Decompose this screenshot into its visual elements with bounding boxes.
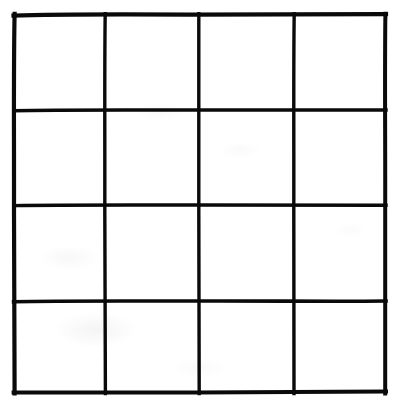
grid-cell-r3c2[interactable] <box>105 205 199 301</box>
grid-cell-r4c2[interactable] <box>105 301 199 392</box>
grid-cell-r4c3[interactable] <box>199 301 294 392</box>
grid-cell-r2c3[interactable] <box>199 110 294 205</box>
grid-cell-r1c3[interactable] <box>199 15 294 110</box>
grid-cell-r2c2[interactable] <box>105 110 199 205</box>
grid-cell-r1c2[interactable] <box>105 15 199 110</box>
grid-cells <box>14 15 385 392</box>
grid-cell-r4c4[interactable] <box>294 301 385 392</box>
grid-canvas <box>0 0 398 406</box>
grid-cell-r4c1[interactable] <box>14 301 105 392</box>
grid-cell-r3c3[interactable] <box>199 205 294 301</box>
grid-cell-r1c1[interactable] <box>14 15 105 110</box>
grid-cell-r2c1[interactable] <box>14 110 105 205</box>
grid-cell-r3c1[interactable] <box>14 205 105 301</box>
grid-cell-r3c4[interactable] <box>294 205 385 301</box>
grid-cell-r1c4[interactable] <box>294 15 385 110</box>
grid-cell-r2c4[interactable] <box>294 110 385 205</box>
